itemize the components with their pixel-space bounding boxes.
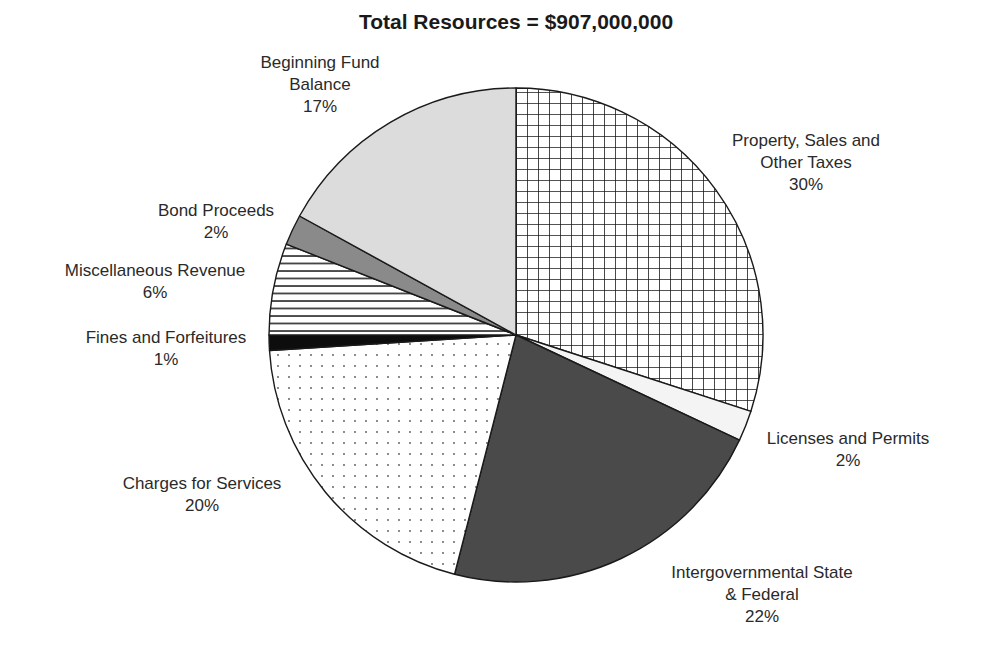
slice-label-line: Property, Sales and [732,130,880,152]
slice-label: Fines and Forfeitures1% [86,327,247,371]
slice-label-line: Other Taxes [732,152,880,174]
slice-label-line: Charges for Services [123,473,282,495]
slice-label-line: Licenses and Permits [767,428,930,450]
slice-label: Miscellaneous Revenue6% [65,260,246,304]
slice-label: Charges for Services20% [123,473,282,517]
slice-label-line: Intergovernmental State [671,562,852,584]
slice-label-line: Fines and Forfeitures [86,327,247,349]
slice-label: Intergovernmental State& Federal22% [671,562,852,628]
slice-label-line: 30% [732,174,880,196]
slice-label-line: Balance [260,74,379,96]
slice-label: Property, Sales andOther Taxes30% [732,130,880,196]
slice-label: Licenses and Permits2% [767,428,930,472]
slice-label-line: & Federal [671,584,852,606]
pie-slices [269,88,763,582]
slice-label-line: 1% [86,349,247,371]
slice-label-line: Bond Proceeds [158,200,274,222]
slice-label-line: 6% [65,282,246,304]
slice-label: Beginning FundBalance17% [260,52,379,118]
slice-label: Bond Proceeds2% [158,200,274,244]
slice-label-line: Miscellaneous Revenue [65,260,246,282]
slice-label-line: Beginning Fund [260,52,379,74]
slice-label-line: 2% [767,450,930,472]
slice-label-line: 20% [123,495,282,517]
slice-label-line: 2% [158,222,274,244]
slice-label-line: 17% [260,96,379,118]
slice-label-line: 22% [671,606,852,628]
